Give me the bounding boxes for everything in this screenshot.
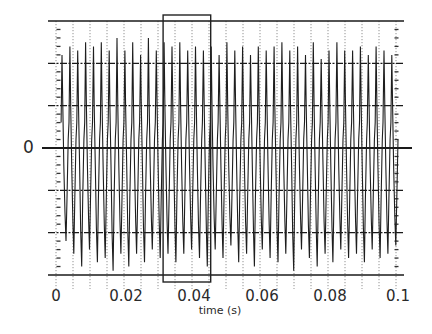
waveform-line — [61, 38, 398, 271]
x-tick-label: 0.04 — [177, 287, 210, 305]
x-axis-label: time (s) — [199, 304, 242, 317]
y-zero-label: 0 — [23, 137, 34, 157]
x-tick-label: 0.08 — [313, 287, 346, 305]
x-tick-label: 0.1 — [386, 287, 410, 305]
waveform-chart — [0, 0, 432, 334]
x-tick-label: 0.02 — [109, 287, 142, 305]
x-tick-label: 0 — [51, 287, 61, 305]
x-tick-label: 0.06 — [245, 287, 278, 305]
